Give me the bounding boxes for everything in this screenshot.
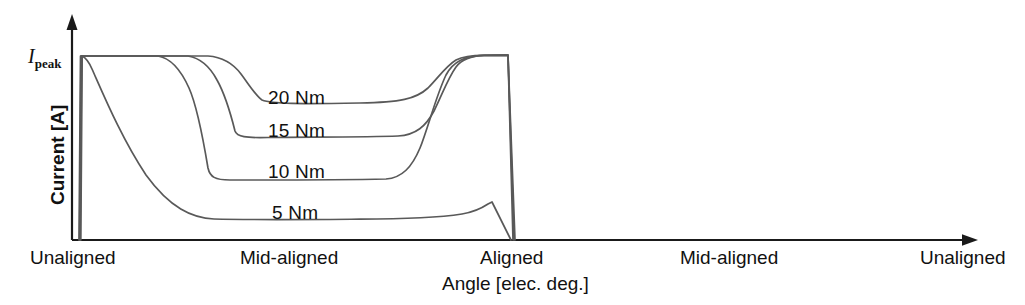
- series-label-15nm: 15 Nm: [268, 121, 325, 140]
- current-profile-chart: Ipeak Current [A] 20 Nm 15 Nm 10 Nm 5 Nm…: [0, 0, 1025, 305]
- x-tick-label-mid-aligned-right: Mid-aligned: [680, 248, 778, 267]
- series-label-20nm: 20 Nm: [268, 88, 325, 107]
- x-tick-label-aligned: Aligned: [480, 248, 543, 267]
- x-tick-label-unaligned-left: Unaligned: [30, 248, 116, 267]
- peak-symbol: I: [28, 45, 35, 67]
- series-label-5nm: 5 Nm: [272, 203, 318, 222]
- peak-subscript: peak: [35, 56, 62, 71]
- x-tick-label-unaligned-right: Unaligned: [920, 248, 1006, 267]
- x-tick-label-mid-aligned-left: Mid-aligned: [240, 248, 338, 267]
- x-axis-arrow-icon: [962, 234, 978, 246]
- series-label-10nm: 10 Nm: [268, 162, 325, 181]
- y-axis-title: Current [A]: [48, 105, 67, 205]
- y-axis-peak-tick-label: Ipeak: [28, 46, 61, 70]
- axes-group: [67, 14, 979, 246]
- x-axis-title: Angle [elec. deg.]: [442, 274, 589, 293]
- y-axis-arrow-icon: [67, 14, 78, 30]
